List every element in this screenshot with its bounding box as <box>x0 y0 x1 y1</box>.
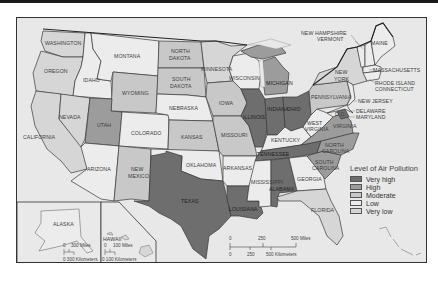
legend-item-very-low: Very low <box>350 207 430 215</box>
label-idaho: IDAHO <box>83 77 100 83</box>
label-north-carolina-2: CAROLINA <box>322 148 350 154</box>
legend-item-moderate: Moderate <box>350 191 430 199</box>
svg-text:100 Miles: 100 Miles <box>113 243 133 248</box>
label-dc: D.C. <box>335 111 346 117</box>
label-new-mexico-2: MEXICO <box>128 173 149 179</box>
label-maryland: MARYLAND <box>356 114 386 120</box>
svg-text:0 100 Kilometers: 0 100 Kilometers <box>102 257 137 262</box>
label-new-york-2: YORK <box>334 76 350 82</box>
label-georgia: GEORGIA <box>297 176 322 182</box>
label-south-dakota-1: SOUTH <box>172 76 191 82</box>
label-california: CALIFORNIA <box>23 134 56 140</box>
legend-label: Very low <box>366 208 392 215</box>
label-florida: FLORIDA <box>311 207 335 213</box>
label-maine: MAINE <box>371 40 388 46</box>
label-colorado: COLORADO <box>131 130 162 136</box>
label-louisiana: LOUISIANA <box>229 206 258 212</box>
legend-swatch-high <box>350 184 362 190</box>
label-ohio: OHIO <box>287 106 301 112</box>
label-utah: UTAH <box>97 122 111 128</box>
label-washington: WASHINGTON <box>45 40 82 46</box>
label-arkansas: ARKANSAS <box>223 165 252 171</box>
svg-text:0: 0 <box>229 252 232 257</box>
label-vermont: VERMONT <box>317 36 344 42</box>
svg-text:500 Miles: 500 Miles <box>291 236 311 241</box>
label-tennessee: TENNESSEE <box>257 151 290 157</box>
svg-text:0 300 Kilometers: 0 300 Kilometers <box>63 257 98 262</box>
label-iowa: IOWA <box>219 100 233 106</box>
label-michigan: MICHIGAN <box>266 80 293 86</box>
legend-label: High <box>366 184 380 191</box>
legend-label: Low <box>366 200 379 207</box>
label-wisconsin: WISCONSIN <box>229 75 260 81</box>
label-pennsylvania: PENNSYLVANIA <box>311 94 352 100</box>
label-north-dakota-1: NORTH <box>171 48 190 54</box>
label-new-york-1: NEW <box>335 69 347 75</box>
svg-text:500 Kilometers: 500 Kilometers <box>266 252 297 257</box>
top-border-bar <box>0 0 438 3</box>
legend-item-low: Low <box>350 199 430 207</box>
legend-item-high: High <box>350 183 430 191</box>
svg-text:250: 250 <box>247 252 255 257</box>
label-north-dakota-2: DAKOTA <box>169 55 191 61</box>
label-nevada: NEVADA <box>59 114 81 120</box>
label-alabama: ALABAMA <box>269 186 295 192</box>
legend-swatch-very-low <box>350 208 362 214</box>
label-massachusetts: MASSACHUSETTS <box>373 67 421 73</box>
label-kansas: KANSAS <box>181 134 203 140</box>
label-oregon: OREGON <box>44 68 68 74</box>
label-texas: TEXAS <box>181 198 199 204</box>
label-wyoming: WYOMING <box>122 90 149 96</box>
svg-text:0: 0 <box>229 236 232 241</box>
label-missouri: MISSOURI <box>221 132 247 138</box>
us-air-pollution-map: WASHINGTON OREGON CALIFORNIA IDAHO NEVAD… <box>16 17 427 263</box>
legend-title: Level of Air Pollution <box>350 164 430 173</box>
label-alaska: ALASKA <box>53 221 74 227</box>
svg-text:250: 250 <box>258 236 266 241</box>
label-south-carolina-2: CAROLINA <box>312 165 340 171</box>
label-new-jersey: NEW JERSEY <box>358 98 393 104</box>
legend-item-very-high: Very high <box>350 175 430 183</box>
label-kentucky: KENTUCKY <box>271 137 300 143</box>
legend: Level of Air Pollution Very high High Mo… <box>350 164 430 215</box>
label-hawaii: HAWAII <box>103 236 122 242</box>
svg-text:0: 0 <box>104 243 107 248</box>
label-mississippi: MISSISSIPPI <box>251 179 283 185</box>
legend-swatch-moderate <box>350 192 362 198</box>
legend-swatch-low <box>350 200 362 206</box>
svg-text:300 Miles: 300 Miles <box>71 243 91 248</box>
label-south-dakota-2: DAKOTA <box>170 83 192 89</box>
map-canvas: WASHINGTON OREGON CALIFORNIA IDAHO NEVAD… <box>17 18 427 263</box>
label-indiana: INDIANA <box>267 106 289 112</box>
label-montana: MONTANA <box>114 53 141 59</box>
label-illinois: ILLINOIS <box>243 114 266 120</box>
label-nebraska: NEBRASKA <box>169 105 198 111</box>
label-arizona: ARIZONA <box>87 166 111 172</box>
label-oklahoma: OKLAHOMA <box>186 162 217 168</box>
label-virginia: VIRGINIA <box>333 123 357 129</box>
label-west-virginia-2: VIRGINIA <box>305 126 329 132</box>
label-new-mexico-1: NEW <box>131 166 143 172</box>
state-indiana <box>265 97 285 135</box>
label-minnesota: MINNESOTA <box>201 66 233 72</box>
label-connecticut: CONNECTICUT <box>375 86 415 92</box>
legend-label: Moderate <box>366 192 396 199</box>
svg-text:0: 0 <box>63 243 66 248</box>
legend-label: Very high <box>366 176 395 183</box>
legend-swatch-very-high <box>350 176 362 182</box>
